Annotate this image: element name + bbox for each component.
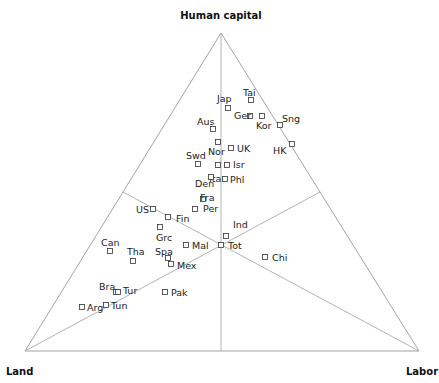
square-marker-icon — [229, 146, 234, 151]
data-point: Ger — [234, 110, 253, 121]
point-label: Grc — [156, 232, 172, 243]
square-marker-icon — [211, 127, 216, 132]
data-point: Fra — [200, 192, 215, 203]
data-point: Tur — [116, 285, 138, 296]
point-label: Nor — [208, 146, 225, 157]
point-label: Mal — [192, 240, 209, 251]
data-point: Grc — [156, 225, 172, 244]
square-marker-icon — [216, 140, 221, 145]
square-marker-icon — [260, 114, 265, 119]
point-label: Ger — [234, 110, 251, 121]
ternary-chart: Human capital Land Labor TaiJapGerKorSng… — [0, 0, 439, 383]
data-point: Isr — [225, 159, 245, 170]
square-marker-icon — [108, 249, 113, 254]
point-label: Pak — [171, 287, 188, 298]
square-marker-icon — [196, 162, 201, 167]
point-label: Jap — [216, 93, 232, 104]
vertex-label-labor: Labor — [406, 366, 438, 377]
point-label: Tun — [110, 300, 127, 311]
data-point: Per — [193, 203, 219, 214]
point-label: Can — [101, 237, 119, 248]
median-land — [25, 192, 320, 351]
data-point: Tun — [104, 300, 128, 311]
point-label: Tur — [122, 285, 137, 296]
square-marker-icon — [131, 259, 136, 264]
point-label: Kor — [256, 120, 272, 131]
square-marker-icon — [225, 163, 230, 168]
point-label: Bra — [99, 281, 115, 292]
point-label: Tot — [227, 240, 242, 251]
point-label: UK — [237, 143, 251, 154]
square-marker-icon — [224, 234, 229, 239]
point-label: Ind — [233, 219, 248, 230]
square-marker-icon — [219, 243, 224, 248]
point-label: Spa — [155, 246, 173, 257]
square-marker-icon — [184, 243, 189, 248]
point-label: Arg — [87, 302, 103, 313]
point-label: Chi — [272, 252, 287, 263]
square-marker-icon — [104, 303, 109, 308]
data-point: HK — [273, 142, 295, 157]
data-point: US — [136, 204, 156, 215]
data-point: Can — [101, 237, 119, 254]
square-marker-icon — [263, 255, 268, 260]
data-point: Mex — [169, 260, 197, 271]
data-point: Sng — [278, 113, 301, 128]
data-points: TaiJapGerKorSngAusHKNorUKSwdItaIsrPhlDen… — [80, 87, 301, 313]
point-label: Mex — [177, 260, 197, 271]
square-marker-icon — [80, 305, 85, 310]
triangle-frame — [25, 33, 419, 351]
data-point: Chi — [263, 252, 288, 263]
data-point: Mal — [184, 240, 209, 251]
point-label: Fin — [176, 213, 189, 224]
square-marker-icon — [116, 290, 121, 295]
square-marker-icon — [223, 177, 228, 182]
data-point: Den — [195, 175, 214, 190]
point-label: Tai — [242, 87, 256, 98]
point-label: Sng — [282, 113, 300, 124]
square-marker-icon — [166, 215, 171, 220]
data-point: Nor — [208, 140, 225, 158]
data-point: Arg — [80, 302, 104, 313]
point-label: Per — [203, 203, 218, 214]
point-label: Fra — [200, 192, 215, 203]
square-marker-icon — [193, 207, 198, 212]
data-point: Spa — [155, 246, 173, 261]
data-point: Aus — [197, 116, 216, 132]
vertex-label-human-capital: Human capital — [180, 10, 261, 21]
square-marker-icon — [169, 262, 174, 267]
point-label: Swd — [186, 150, 206, 161]
data-point: Pak — [163, 287, 189, 298]
point-label: Isr — [233, 159, 245, 170]
data-point: Tai — [242, 87, 256, 103]
point-label: US — [136, 204, 149, 215]
data-point: Kor — [256, 114, 272, 132]
data-point: Tot — [219, 240, 243, 251]
point-label: Aus — [197, 116, 215, 127]
square-marker-icon — [290, 142, 295, 147]
data-point: Tha — [126, 246, 145, 264]
square-marker-icon — [216, 163, 221, 168]
square-marker-icon — [151, 207, 156, 212]
data-point: Jap — [216, 93, 232, 111]
square-marker-icon — [163, 290, 168, 295]
point-label: Den — [195, 178, 214, 189]
point-label: Tha — [126, 246, 145, 257]
square-marker-icon — [226, 106, 231, 111]
vertex-label-land: Land — [6, 366, 33, 377]
square-marker-icon — [249, 98, 254, 103]
data-point: Fin — [166, 213, 190, 224]
square-marker-icon — [158, 225, 163, 230]
data-point: Ind — [224, 219, 248, 239]
point-label: Phl — [230, 174, 244, 185]
data-point: Swd — [186, 150, 206, 167]
point-label: HK — [273, 145, 287, 156]
data-point: UK — [229, 143, 251, 154]
data-point: Phl — [223, 174, 245, 185]
